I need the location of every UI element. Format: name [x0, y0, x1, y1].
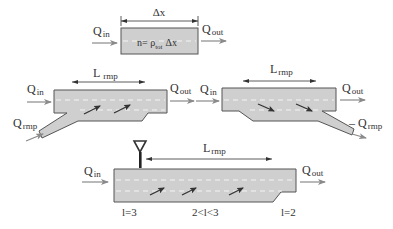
off-ramp-q-out-label: Qout [342, 81, 364, 96]
lane-drop-road [114, 169, 296, 202]
diagram-canvas: Δx n= ρtotΔx Qin Qout Lrmp Qin [0, 0, 393, 229]
lane-drop-length-label: Lrmp [203, 141, 226, 156]
cell-q-out-label: Qout [202, 22, 224, 37]
off-ramp-q-in-label: Qin [200, 82, 217, 97]
ramp-inflow-arrow [26, 134, 43, 141]
off-ramp-diagram: Lrmp Qin Qout – Qrmp [196, 62, 383, 138]
on-ramp-q-rmp-label: Qrmp [13, 116, 38, 131]
lanes-start-label: l=3 [122, 206, 137, 218]
off-ramp-road [222, 88, 354, 135]
off-ramp-length-label: Lrmp [270, 62, 293, 77]
off-ramp-q-rmp-label: – Qrmp [348, 116, 383, 131]
lane-drop-q-out-label: Qout [302, 163, 324, 178]
cell-q-in-label: Qin [93, 24, 110, 39]
on-ramp-q-in-label: Qin [27, 82, 44, 97]
lanes-end-label: l=2 [281, 206, 296, 218]
cell-diagram: Δx n= ρtotΔx Qin Qout [92, 6, 226, 54]
on-ramp-road [39, 90, 167, 138]
on-ramp-q-out-label: Qout [170, 81, 192, 96]
on-ramp-length-label: Lrmp [93, 66, 118, 81]
lane-drop-diagram: Lrmp Qin Qout l=3 2<l<3 l=2 [82, 141, 325, 218]
cell-length-label: Δx [153, 6, 166, 18]
lanes-middle-label: 2<l<3 [192, 206, 219, 218]
lane-drop-q-in-label: Qin [84, 164, 101, 179]
ramp-outflow-arrow [352, 134, 366, 138]
on-ramp-diagram: Lrmp Qin Qout Qrmp [13, 66, 194, 141]
yield-sign-icon [134, 141, 146, 168]
